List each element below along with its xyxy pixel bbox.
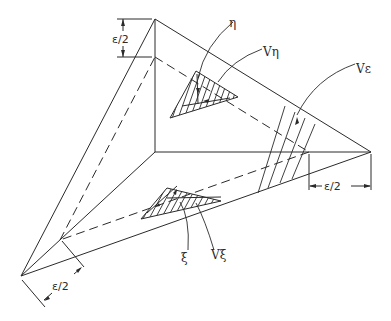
triangle-control-volume-diagram: ε/2 ε/2 ε/2 bbox=[0, 0, 391, 321]
dim-bottom-left-label: ε/2 bbox=[52, 280, 69, 293]
dimension-right: ε/2 bbox=[309, 154, 371, 193]
label-eta: η bbox=[229, 16, 236, 30]
label-xi: ξ bbox=[181, 251, 188, 265]
outer-triangle bbox=[21, 19, 371, 276]
dimension-bottom-left: ε/2 bbox=[22, 241, 84, 307]
label-v-xi: Vξ bbox=[210, 248, 227, 262]
center-edges bbox=[21, 19, 371, 276]
label-v-eta: Vη bbox=[262, 45, 279, 59]
v-epsilon-strip bbox=[258, 106, 315, 193]
upper-control-volume bbox=[162, 62, 246, 130]
dimension-top: ε/2 bbox=[112, 19, 152, 57]
label-v-epsilon: Vε bbox=[355, 62, 371, 76]
dim-right-label: ε/2 bbox=[324, 180, 341, 193]
dim-top-label: ε/2 bbox=[112, 33, 129, 46]
